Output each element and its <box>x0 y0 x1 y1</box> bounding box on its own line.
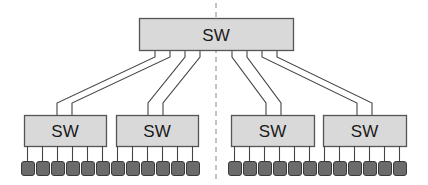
end-device-node <box>319 162 332 176</box>
end-device-node <box>364 162 377 176</box>
edge-switch-3: SW <box>232 116 315 147</box>
end-device-node <box>229 162 242 176</box>
links <box>57 50 372 115</box>
edge-switch-label: SW <box>143 122 170 141</box>
uplink-cable <box>277 50 372 115</box>
end-device-node <box>334 162 347 176</box>
end-device-node <box>304 162 317 176</box>
edge-switch-4: SW <box>324 116 407 147</box>
end-device-node <box>157 162 170 176</box>
end-device-node <box>82 162 95 176</box>
end-device-node <box>244 162 257 176</box>
end-device-node <box>142 162 155 176</box>
end-device-node <box>97 162 110 176</box>
core-switch: SW <box>140 19 294 51</box>
end-device-node <box>187 162 200 176</box>
end-device-node <box>274 162 287 176</box>
uplink-cable <box>247 50 281 115</box>
end-device-node <box>394 162 407 176</box>
edge-switch-label: SW <box>259 122 286 141</box>
end-device-node <box>37 162 50 176</box>
network-diagram: SW SWSWSWSW <box>0 0 428 185</box>
end-device-node <box>349 162 362 176</box>
end-devices <box>22 146 407 176</box>
uplink-cable <box>163 50 200 115</box>
end-device-node <box>289 162 302 176</box>
uplink-cable <box>72 50 170 115</box>
end-device-node <box>379 162 392 176</box>
end-device-node <box>172 162 185 176</box>
end-device-node <box>259 162 272 176</box>
end-device-node <box>67 162 80 176</box>
edge-switch-label: SW <box>51 122 78 141</box>
end-device-node <box>127 162 140 176</box>
end-device-node <box>22 162 35 176</box>
end-device-node <box>112 162 125 176</box>
edge-switch-1: SW <box>25 116 107 147</box>
uplink-cable <box>262 50 357 115</box>
edge-switch-2: SW <box>117 116 199 147</box>
edge-switch-label: SW <box>351 122 378 141</box>
core-switch-label: SW <box>202 26 229 45</box>
end-device-node <box>52 162 65 176</box>
